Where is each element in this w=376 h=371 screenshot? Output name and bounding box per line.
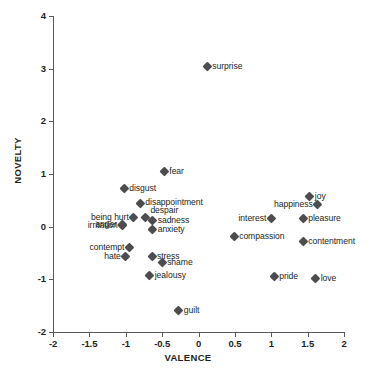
y-tick bbox=[49, 174, 53, 175]
x-tick bbox=[344, 333, 345, 337]
diamond-marker-icon bbox=[121, 251, 131, 261]
diamond-marker-icon bbox=[313, 200, 323, 210]
x-tick-label: -1 bbox=[111, 338, 141, 349]
y-tick bbox=[49, 279, 53, 280]
diamond-marker-icon bbox=[159, 167, 169, 177]
data-point-label: shame bbox=[167, 258, 193, 267]
data-point-label: pride bbox=[279, 272, 298, 281]
diamond-marker-icon bbox=[145, 271, 155, 281]
x-tick bbox=[126, 333, 127, 337]
y-tick-label: -2 bbox=[18, 326, 46, 337]
y-axis-line bbox=[53, 16, 54, 333]
x-tick-label: 1.5 bbox=[293, 338, 323, 349]
data-point-label: anxiety bbox=[158, 225, 185, 234]
data-point-label: contentment bbox=[308, 237, 355, 246]
data-point-label: irritation bbox=[88, 221, 118, 230]
data-point-label: love bbox=[321, 274, 337, 283]
x-tick-label: 2 bbox=[329, 338, 359, 349]
data-point-label: guilt bbox=[184, 306, 200, 315]
diamond-marker-icon bbox=[298, 237, 308, 247]
y-tick-label: 0 bbox=[18, 221, 46, 232]
y-tick bbox=[49, 69, 53, 70]
y-tick-label: 3 bbox=[18, 63, 46, 74]
diamond-marker-icon bbox=[202, 62, 212, 72]
x-tick bbox=[271, 333, 272, 337]
y-tick bbox=[49, 121, 53, 122]
diamond-marker-icon bbox=[118, 221, 128, 231]
x-tick bbox=[89, 333, 90, 337]
data-point-label: jealousy bbox=[155, 271, 186, 280]
x-tick bbox=[308, 333, 309, 337]
x-axis-title: VALENCE bbox=[0, 352, 376, 363]
diamond-marker-icon bbox=[135, 198, 145, 208]
y-axis-title: NOVELTY bbox=[12, 116, 23, 206]
y-tick bbox=[49, 16, 53, 17]
diamond-marker-icon bbox=[129, 212, 139, 222]
data-point-label: disgust bbox=[129, 184, 156, 193]
y-tick bbox=[49, 227, 53, 228]
diamond-marker-icon bbox=[229, 232, 239, 242]
diamond-marker-icon bbox=[266, 213, 276, 223]
scatter-plot-figure: -2-1.5-1-0.500.511.52 -2-101234 surprise… bbox=[0, 0, 376, 371]
data-point-label: compassion bbox=[239, 232, 284, 241]
diamond-marker-icon bbox=[125, 243, 135, 253]
x-tick-label: 1 bbox=[256, 338, 286, 349]
diamond-marker-icon bbox=[174, 306, 184, 316]
x-tick bbox=[235, 333, 236, 337]
y-tick-label: -1 bbox=[18, 273, 46, 284]
diamond-marker-icon bbox=[148, 224, 158, 234]
x-tick bbox=[162, 333, 163, 337]
y-tick-label: 4 bbox=[18, 10, 46, 21]
data-point-label: hate bbox=[104, 252, 121, 261]
y-tick bbox=[49, 332, 53, 333]
data-point-label: pleasure bbox=[308, 214, 341, 223]
diamond-marker-icon bbox=[119, 184, 129, 194]
diamond-marker-icon bbox=[269, 272, 279, 282]
x-tick bbox=[199, 333, 200, 337]
data-point-label: fear bbox=[169, 167, 184, 176]
x-tick-label: -0.5 bbox=[147, 338, 177, 349]
data-point-label: happiness bbox=[274, 200, 313, 209]
diamond-marker-icon bbox=[298, 213, 308, 223]
data-point-label: interest bbox=[238, 214, 266, 223]
x-tick-label: 0 bbox=[184, 338, 214, 349]
data-point-label: surprise bbox=[212, 62, 242, 71]
diamond-marker-icon bbox=[148, 216, 158, 226]
x-tick-label: -2 bbox=[38, 338, 68, 349]
diamond-marker-icon bbox=[311, 273, 321, 283]
x-tick bbox=[53, 333, 54, 337]
x-tick-label: 0.5 bbox=[220, 338, 250, 349]
x-tick-label: -1.5 bbox=[74, 338, 104, 349]
diamond-marker-icon bbox=[147, 252, 157, 262]
data-point-label: despair bbox=[150, 206, 178, 215]
